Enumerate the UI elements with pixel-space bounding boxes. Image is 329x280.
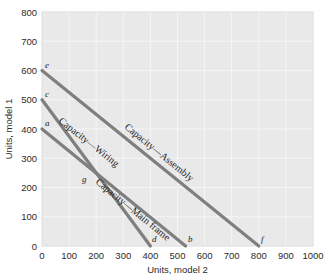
x-tick-100: 100 (61, 250, 77, 261)
x-tick-400: 400 (142, 250, 158, 261)
y-tick-700: 700 (21, 36, 37, 47)
point-label-d: d (152, 234, 157, 244)
y-tick-labels: 0 100 200 300 400 500 600 700 800 (21, 7, 37, 252)
x-tick-200: 200 (88, 250, 104, 261)
x-tick-600: 600 (197, 250, 213, 261)
y-tick-0: 0 (32, 241, 37, 252)
x-tick-900: 900 (278, 250, 294, 261)
y-tick-100: 100 (21, 211, 37, 222)
x-tick-500: 500 (170, 250, 186, 261)
x-tick-300: 300 (115, 250, 131, 261)
point-label-e: e (45, 60, 49, 70)
x-axis-title: Units, model 2 (147, 264, 208, 275)
x-tick-800: 800 (251, 250, 267, 261)
x-tick-labels: 0 100 200 300 400 500 600 700 800 900 10… (39, 250, 323, 261)
y-tick-300: 300 (21, 153, 37, 164)
point-label-c: c (45, 89, 49, 99)
y-tick-600: 600 (21, 65, 37, 76)
y-tick-200: 200 (21, 182, 37, 193)
y-tick-500: 500 (21, 94, 37, 105)
point-label-a: a (45, 118, 50, 128)
capacity-chart: Capacity—Wiring Capacity—Assembly Capaci… (0, 0, 329, 280)
point-label-g: g (82, 174, 87, 184)
x-tick-700: 700 (224, 250, 240, 261)
x-tick-0: 0 (39, 250, 44, 261)
point-label-b: b (188, 234, 193, 244)
y-axis-title: Units, model 1 (3, 99, 14, 160)
x-tick-1000: 1000 (302, 250, 323, 261)
chart-canvas: Capacity—Wiring Capacity—Assembly Capaci… (0, 0, 329, 280)
y-tick-800: 800 (21, 7, 37, 18)
y-tick-400: 400 (21, 124, 37, 135)
